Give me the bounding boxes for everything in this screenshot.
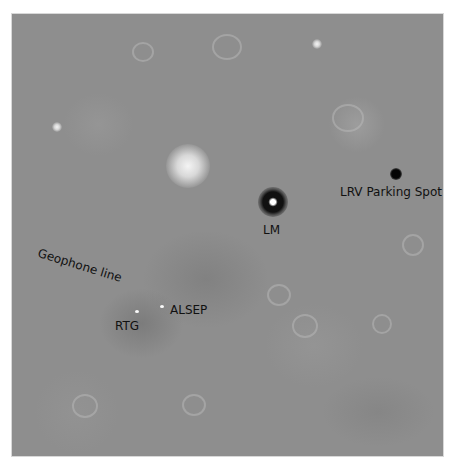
- alsep-label: ALSEP: [170, 304, 207, 316]
- lm-marker: [258, 187, 288, 217]
- bright-spot: [312, 39, 322, 49]
- bright-spot: [52, 122, 62, 132]
- crater: [267, 284, 291, 306]
- crater: [292, 314, 318, 338]
- crater: [402, 234, 424, 256]
- surface-texture: [12, 14, 443, 456]
- lm-label: LM: [263, 224, 280, 236]
- crater: [332, 104, 364, 132]
- crater: [182, 394, 206, 416]
- lrv-marker: [390, 168, 402, 180]
- alsep-marker: [160, 305, 164, 308]
- lrv-parking-spot-label: LRV Parking Spot: [340, 186, 442, 198]
- crater: [132, 42, 154, 62]
- bright-ejecta-patch: [166, 144, 210, 188]
- rtg-label: RTG: [115, 320, 139, 332]
- lunar-surface-image: LM LRV Parking Spot Geophone line ALSEP …: [11, 13, 444, 457]
- crater: [372, 314, 392, 334]
- rtg-marker: [135, 310, 139, 313]
- crater: [212, 34, 242, 60]
- crater: [72, 394, 98, 418]
